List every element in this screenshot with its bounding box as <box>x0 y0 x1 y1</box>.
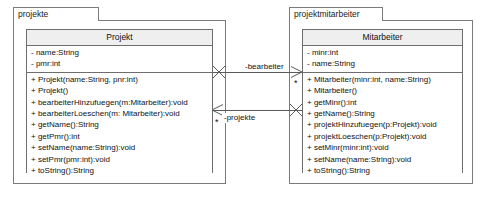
class-projekt-attributes: - name:String - pmr:int <box>27 46 212 73</box>
operation-row: + getName():String <box>27 119 212 130</box>
association-bearbeiter-target-multiplicity: * <box>294 80 298 87</box>
association-bearbeiter-arrowhead-icon <box>290 65 304 79</box>
class-mitarbeiter-name: Mitarbeiter <box>303 30 462 46</box>
attribute-row: - name:String <box>27 47 212 58</box>
operation-row: + setName(name:String):void <box>27 142 212 153</box>
operation-row: + Projekt() <box>27 85 212 96</box>
operation-row: + getPmr():int <box>27 131 212 142</box>
operation-row: + bearbeiterLoeschen(m: Mitarbeiter):voi… <box>27 108 212 119</box>
package-projekte-tab: projekte <box>13 7 99 21</box>
association-projekte-label: -projekte <box>222 113 257 123</box>
class-mitarbeiter[interactable]: Mitarbeiter - minr:int - name:String + M… <box>302 29 463 173</box>
operation-row: + Mitarbeiter() <box>303 85 462 96</box>
class-projekt[interactable]: Projekt - name:String - pmr:int + Projek… <box>26 29 213 173</box>
package-projektmitarbeiter-tab: projektmitarbeiter <box>289 7 383 21</box>
association-bearbeiter-label: -bearbeiter <box>243 62 286 72</box>
operation-row: + setPmr(pmr:int):void <box>27 154 212 165</box>
association-projekte-target-cross-icon <box>289 103 303 117</box>
operation-row: + projektLoeschen(p:Projekt):void <box>303 131 462 142</box>
operation-row: + bearbeiterHinzufuegen(m:Mitarbeiter):v… <box>27 97 212 108</box>
operation-row: + setMinr(minr:int):void <box>303 142 462 153</box>
attribute-row: - minr:int <box>303 47 462 58</box>
class-projekt-name: Projekt <box>27 30 212 46</box>
operation-row: + getName():String <box>303 108 462 119</box>
operation-row: + Mitarbeiter(minr:int, name:String) <box>303 74 462 85</box>
class-mitarbeiter-attributes: - minr:int - name:String <box>303 46 462 73</box>
package-projekte-label: projekte <box>18 9 48 19</box>
operation-row: + toString():String <box>303 165 462 176</box>
operation-row: + Projekt(name:String, pnr:int) <box>27 74 212 85</box>
attribute-row: - name:String <box>303 58 462 69</box>
class-mitarbeiter-operations: + Mitarbeiter(minr:int, name:String) + M… <box>303 73 462 179</box>
operation-row: + getMinr():int <box>303 97 462 108</box>
operation-row: + projektHinzufuegen(p:Projekt):void <box>303 119 462 130</box>
association-bearbeiter-source-cross-icon <box>212 65 226 79</box>
association-bearbeiter-line[interactable] <box>213 72 302 73</box>
operation-row: + toString():String <box>27 165 212 176</box>
operation-row: + setName(name:String):void <box>303 154 462 165</box>
uml-diagram-canvas: projekte Projekt - name:String - pmr:int… <box>0 0 486 199</box>
package-projektmitarbeiter-label: projektmitarbeiter <box>294 9 360 19</box>
attribute-row: - pmr:int <box>27 58 212 69</box>
association-projekte-source-multiplicity: * <box>215 119 219 126</box>
class-projekt-operations: + Projekt(name:String, pnr:int) + Projek… <box>27 73 212 179</box>
